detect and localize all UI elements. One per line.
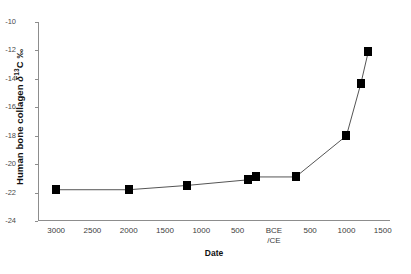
y-tick-label: -22 <box>0 189 16 197</box>
data-point-marker <box>252 172 260 181</box>
y-tick-mark <box>35 193 38 194</box>
y-tick-mark <box>35 50 38 51</box>
y-tick-mark <box>35 136 38 137</box>
data-point-marker <box>52 185 60 194</box>
y-tick-label: -12 <box>0 46 16 54</box>
data-point-marker <box>183 181 191 190</box>
data-point-marker <box>125 185 133 194</box>
x-axis-title: Date <box>38 248 390 258</box>
y-tick-mark <box>35 164 38 165</box>
y-tick-mark <box>35 221 38 222</box>
data-point-marker <box>364 47 372 56</box>
y-tick-mark <box>35 107 38 108</box>
y-tick-label: -24 <box>0 217 16 225</box>
y-tick-label: -16 <box>0 103 16 111</box>
y-axis-title: Human bone collagen δ13C ‰ <box>12 2 28 232</box>
y-tick-mark <box>35 22 38 23</box>
plot-area: -10-12-14-16-18-20-22-243000250020001500… <box>38 22 390 221</box>
data-point-marker <box>342 131 350 140</box>
chart-figure: Human bone collagen δ13C ‰ -10-12-14-16-… <box>0 0 411 274</box>
y-tick-mark <box>35 79 38 80</box>
data-point-marker <box>357 79 365 88</box>
x-tick-label: 1500 <box>361 226 405 236</box>
y-tick-label: -20 <box>0 160 16 168</box>
series-line <box>38 22 390 221</box>
y-tick-label: -14 <box>0 75 16 83</box>
y-tick-label: -18 <box>0 132 16 140</box>
y-tick-label: -10 <box>0 18 16 26</box>
data-point-marker <box>292 172 300 181</box>
